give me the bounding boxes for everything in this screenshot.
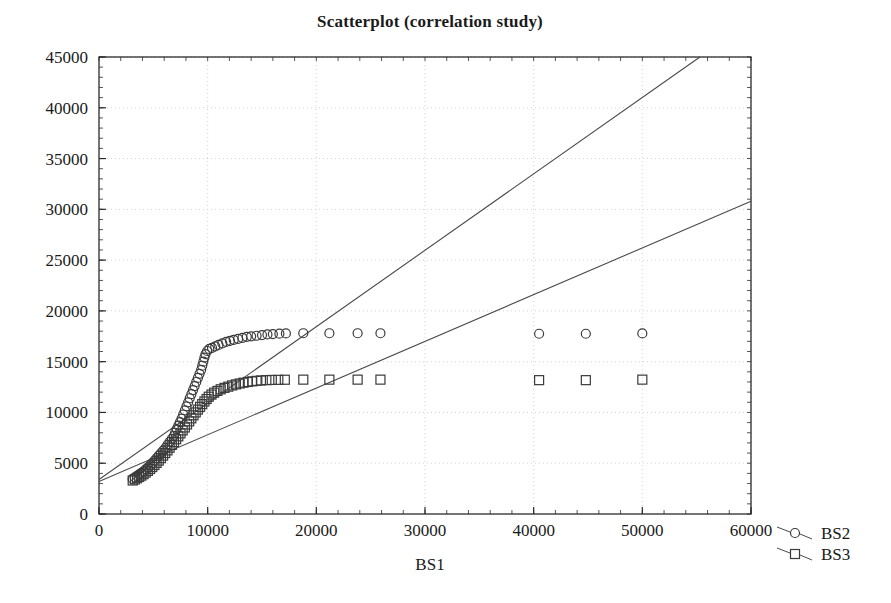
plot-canvas: 0100002000030000400005000060000050001000… bbox=[0, 0, 891, 603]
x-tick-label: 0 bbox=[95, 521, 104, 540]
y-tick-label: 35000 bbox=[46, 150, 89, 169]
point-BS2 bbox=[353, 329, 362, 338]
point-BS2 bbox=[376, 329, 385, 338]
point-BS3 bbox=[267, 375, 276, 384]
x-tick-label: 10000 bbox=[186, 521, 229, 540]
x-tick-label: 40000 bbox=[512, 521, 555, 540]
point-BS2 bbox=[325, 329, 334, 338]
scatterplot-figure: Scatterplot (correlation study) 01000020… bbox=[0, 0, 891, 603]
legend-line-right bbox=[800, 555, 812, 560]
legend-line-left bbox=[777, 548, 790, 553]
legend-marker-BS2 bbox=[791, 529, 800, 538]
y-tick-label: 20000 bbox=[46, 302, 89, 321]
legend-label-BS2: BS2 bbox=[821, 524, 850, 543]
point-BS3 bbox=[581, 376, 590, 385]
legend: BS2BS3 bbox=[777, 524, 850, 564]
point-BS3 bbox=[535, 376, 544, 385]
point-BS3 bbox=[299, 375, 308, 384]
legend-marker-BS3 bbox=[791, 550, 800, 559]
point-BS3 bbox=[638, 375, 647, 384]
grid-lines bbox=[99, 57, 751, 514]
y-tick-label: 45000 bbox=[46, 48, 89, 67]
legend-line-left bbox=[777, 527, 790, 532]
y-tick-label: 5000 bbox=[54, 454, 88, 473]
x-tick-label: 50000 bbox=[621, 521, 664, 540]
point-BS3 bbox=[376, 375, 385, 384]
y-tick-label: 15000 bbox=[46, 353, 89, 372]
point-BS3 bbox=[274, 375, 283, 384]
legend-line-right bbox=[800, 534, 812, 539]
y-tick-label: 30000 bbox=[46, 200, 89, 219]
legend-label-BS3: BS3 bbox=[821, 545, 850, 564]
point-BS3 bbox=[353, 375, 362, 384]
point-BS3 bbox=[280, 375, 289, 384]
x-tick-label: 60000 bbox=[730, 521, 773, 540]
x-tick-label: 20000 bbox=[295, 521, 338, 540]
point-BS2 bbox=[581, 329, 590, 338]
x-axis-title: BS1 bbox=[415, 555, 444, 574]
y-tick-label: 0 bbox=[80, 505, 89, 524]
point-BS2 bbox=[281, 329, 290, 338]
y-tick-label: 40000 bbox=[46, 99, 89, 118]
y-tick-label: 25000 bbox=[46, 251, 89, 270]
trend-line-BS3-fit bbox=[99, 201, 751, 481]
point-BS2 bbox=[535, 329, 544, 338]
y-tick-label: 10000 bbox=[46, 403, 89, 422]
x-tick-label: 30000 bbox=[404, 521, 447, 540]
data-points bbox=[128, 329, 647, 485]
point-BS3 bbox=[262, 376, 271, 385]
